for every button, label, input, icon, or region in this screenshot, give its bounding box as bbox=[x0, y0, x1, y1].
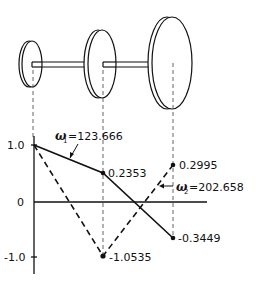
mode1-value-2: 0.2353 bbox=[108, 167, 147, 180]
disk-2 bbox=[84, 30, 116, 98]
disk-1 bbox=[19, 41, 42, 87]
omega2-value: =202.658 bbox=[189, 181, 244, 194]
y-tick-label-neg1: -1.0 bbox=[4, 251, 25, 264]
omega1-subscript: 1 bbox=[63, 137, 67, 145]
mode2-value-3: 0.2995 bbox=[179, 159, 218, 172]
disk-3 bbox=[148, 17, 192, 109]
mode1-point-3 bbox=[171, 236, 176, 241]
mode2-line bbox=[34, 145, 173, 256]
mode2-point-2 bbox=[100, 253, 105, 258]
omega1-label: ω 1 =123.666 bbox=[55, 129, 123, 158]
mode-shape-diagram: 1.0 0 -1.0 0.2353 -0.3449 ω 1 =123.666 -… bbox=[0, 0, 259, 289]
mode2-value-2: -1.0535 bbox=[109, 251, 151, 264]
mode1-value-3: -0.3449 bbox=[178, 232, 220, 245]
shaft-assembly bbox=[19, 17, 192, 109]
omega2-subscript: 2 bbox=[184, 188, 188, 196]
y-tick-label-0: 0 bbox=[17, 196, 24, 209]
mode2-point-3 bbox=[171, 163, 176, 168]
mode1-point-2 bbox=[101, 171, 106, 176]
omega2-label: ω 2 =202.658 bbox=[159, 180, 244, 196]
omega1-value: =123.666 bbox=[68, 130, 123, 143]
y-tick-label-1: 1.0 bbox=[7, 139, 25, 152]
